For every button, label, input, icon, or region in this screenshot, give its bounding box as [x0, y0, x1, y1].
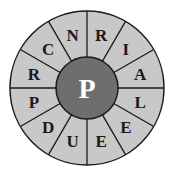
ring-letter: L: [134, 93, 145, 112]
ring-letter: E: [96, 132, 107, 151]
ring-letter: E: [120, 118, 131, 137]
ring-letter: U: [67, 132, 79, 151]
ring-letter: D: [42, 118, 54, 137]
ring-letter: A: [134, 65, 147, 84]
letter-wheel: RIALEEUDPRCN P: [0, 0, 174, 178]
center-letter: P: [78, 73, 95, 104]
ring-letter: P: [29, 93, 39, 112]
ring-letter: N: [67, 26, 80, 45]
ring-letter: I: [123, 40, 130, 59]
ring-letter: R: [28, 65, 41, 84]
ring-letter: R: [95, 26, 108, 45]
ring-letter: C: [42, 40, 54, 59]
